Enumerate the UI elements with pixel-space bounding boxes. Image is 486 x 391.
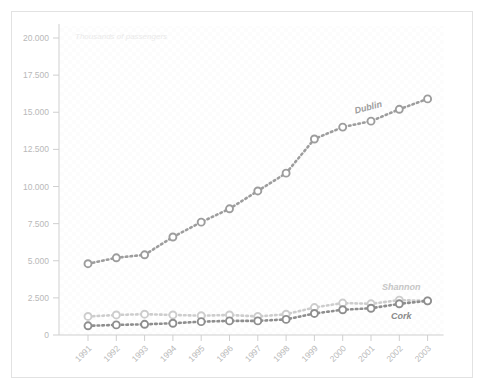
data-point-marker bbox=[424, 297, 431, 304]
data-point-marker bbox=[85, 260, 92, 267]
chart-subtitle: Thousands of passengers bbox=[75, 32, 167, 41]
x-axis-tick-label: 1994 bbox=[158, 343, 179, 364]
x-axis-tick-label: 2000 bbox=[328, 343, 349, 364]
y-axis-tick-label: 2.500 bbox=[28, 293, 50, 303]
y-axis-tick-label: 12.500 bbox=[23, 144, 49, 154]
data-point-marker bbox=[226, 317, 233, 324]
data-point-marker bbox=[283, 170, 290, 177]
x-axis-tick-label: 1997 bbox=[243, 343, 264, 364]
y-axis-tick-label: 20.000 bbox=[23, 33, 49, 43]
data-point-marker bbox=[141, 321, 148, 328]
series-annotation-cork: Cork bbox=[391, 311, 412, 321]
data-point-marker bbox=[424, 95, 431, 102]
line-chart-plot: 02.5005.0007.50010.00012.50015.00017.500… bbox=[0, 0, 486, 391]
data-point-marker bbox=[169, 233, 176, 240]
data-point-marker bbox=[169, 320, 176, 327]
y-axis-tick-label: 17.500 bbox=[23, 70, 49, 80]
data-point-marker bbox=[141, 251, 148, 258]
data-point-marker bbox=[283, 316, 290, 323]
data-point-marker bbox=[368, 118, 375, 125]
data-point-marker bbox=[113, 311, 120, 318]
data-point-marker bbox=[198, 219, 205, 226]
chart-figure: 02.5005.0007.50010.00012.50015.00017.500… bbox=[0, 0, 486, 391]
data-point-marker bbox=[311, 310, 318, 317]
x-axis-tick-label: 1992 bbox=[101, 343, 122, 364]
data-point-marker bbox=[368, 305, 375, 312]
y-axis-tick-label: 0 bbox=[44, 330, 49, 340]
x-axis-tick-label: 1991 bbox=[73, 343, 94, 364]
data-point-marker bbox=[254, 317, 261, 324]
x-axis-tick-label: 1998 bbox=[271, 343, 292, 364]
x-axis-tick-label: 2003 bbox=[413, 343, 434, 364]
data-point-marker bbox=[311, 135, 318, 142]
data-point-marker bbox=[113, 321, 120, 328]
y-axis-tick-label: 15.000 bbox=[23, 107, 49, 117]
y-axis-tick-label: 7.500 bbox=[28, 219, 50, 229]
x-axis-tick-label: 2002 bbox=[384, 343, 405, 364]
data-point-marker bbox=[226, 205, 233, 212]
x-axis-tick-label: 1999 bbox=[299, 343, 320, 364]
data-point-marker bbox=[85, 313, 92, 320]
series-annotation-shannon: Shannon bbox=[382, 282, 421, 292]
x-axis-tick-label: 1995 bbox=[186, 343, 207, 364]
data-point-marker bbox=[339, 306, 346, 313]
data-point-marker bbox=[113, 254, 120, 261]
y-axis-tick-label: 10.000 bbox=[23, 182, 49, 192]
data-point-marker bbox=[254, 187, 261, 194]
data-point-marker bbox=[169, 311, 176, 318]
data-point-marker bbox=[85, 322, 92, 329]
data-point-marker bbox=[339, 124, 346, 131]
x-axis-tick-label: 2001 bbox=[356, 343, 377, 364]
x-axis-tick-label: 1993 bbox=[130, 343, 151, 364]
data-point-marker bbox=[396, 106, 403, 113]
data-point-marker bbox=[141, 311, 148, 318]
y-axis-tick-label: 5.000 bbox=[28, 256, 50, 266]
data-point-marker bbox=[198, 318, 205, 325]
x-axis-tick-label: 1996 bbox=[214, 343, 235, 364]
data-point-marker bbox=[396, 300, 403, 307]
